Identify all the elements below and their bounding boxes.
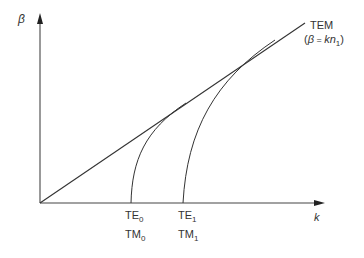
te1-tm1-curve xyxy=(183,40,275,203)
tem-formula: (β = kn1) xyxy=(304,34,344,48)
mode-label-tm1: TM1 xyxy=(178,229,198,243)
tem-name: TEM xyxy=(310,19,333,31)
mode-label-tm0: TM0 xyxy=(125,229,145,243)
te0-tm0-curve xyxy=(131,103,186,203)
k-axis-arrow-icon xyxy=(314,200,325,206)
mode-label-te0: TE0 xyxy=(125,210,144,224)
mode-label-te1: TE1 xyxy=(178,210,197,224)
tem-label: TEM xyxy=(310,20,333,31)
k-axis-label: k xyxy=(314,212,320,223)
beta-axis-label: β xyxy=(18,13,25,25)
beta-axis-arrow-icon xyxy=(37,13,43,24)
